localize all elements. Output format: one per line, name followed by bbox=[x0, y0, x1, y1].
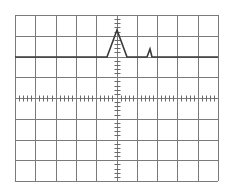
oscilloscope-graticule bbox=[0, 0, 233, 192]
